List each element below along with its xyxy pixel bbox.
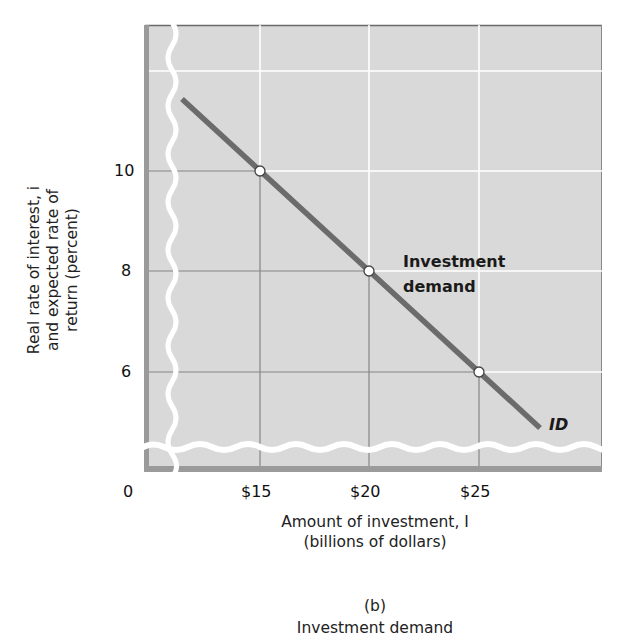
panel-label: (b) — [200, 595, 550, 617]
curve-label-id: ID — [549, 415, 568, 434]
x-tick-20: $20 — [350, 482, 381, 501]
figure-caption: (b) Investment demand — [200, 595, 550, 639]
y-tick-10: 10 — [114, 161, 134, 180]
x-axis-label: Amount of investment, I (billions of dol… — [250, 512, 500, 552]
y-tick-8: 8 — [121, 261, 131, 280]
y-axis-label: Real rate of interest, i and expected ra… — [25, 120, 82, 420]
y-axis-label-line2: and expected rate of — [44, 120, 63, 420]
x-axis-label-line2: (billions of dollars) — [250, 532, 500, 552]
data-point-20-8 — [364, 266, 374, 276]
plot-bottom-axis — [144, 466, 602, 472]
x-axis-label-line1: Amount of investment, I — [250, 512, 500, 532]
plot-left-axis — [144, 25, 149, 472]
data-point-15-10 — [255, 166, 265, 176]
y-axis-label-line1: Real rate of interest, i — [25, 120, 44, 420]
plot-background — [145, 25, 602, 471]
y-axis-label-line3: return (percent) — [63, 120, 82, 420]
curve-annotation-line2: demand — [403, 277, 476, 296]
figure-title: Investment demand — [200, 617, 550, 639]
x-tick-25: $25 — [460, 482, 491, 501]
data-point-25-6 — [474, 367, 484, 377]
x-tick-15: $15 — [241, 482, 272, 501]
curve-annotation-line1: Investment — [403, 252, 506, 271]
y-tick-6: 6 — [121, 362, 131, 381]
x-tick-0: 0 — [123, 482, 133, 501]
